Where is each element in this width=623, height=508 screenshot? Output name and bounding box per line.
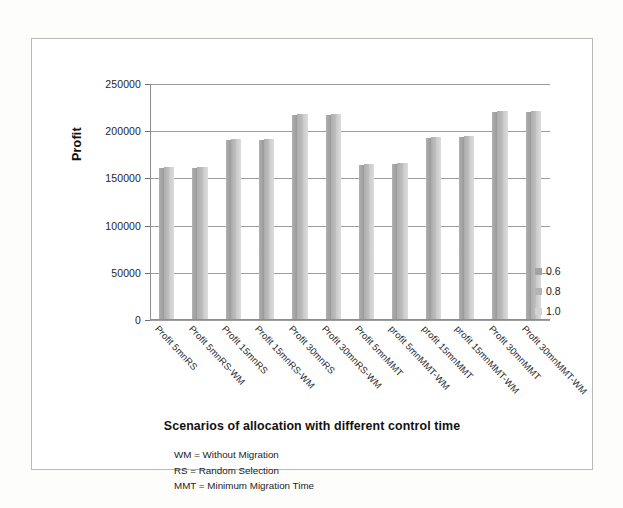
bar[interactable] bbox=[503, 111, 508, 320]
legend-label: 1.0 bbox=[546, 305, 561, 317]
x-axis-tick-label: Profit 30mnMMT-WM bbox=[520, 323, 590, 397]
legend-item[interactable]: 1.0 bbox=[535, 301, 605, 321]
chart-page: Profit 250000200000150000100000500000 Pr… bbox=[0, 0, 623, 508]
legend-swatch-icon bbox=[535, 288, 542, 295]
bar-group[interactable] bbox=[326, 84, 342, 320]
y-axis-tick bbox=[145, 320, 150, 321]
abbreviation-notes: WM = Without MigrationRS = Random Select… bbox=[174, 447, 314, 494]
gridline bbox=[150, 320, 550, 321]
legend-swatch-icon bbox=[535, 268, 542, 275]
abbreviation-note: RS = Random Selection bbox=[174, 463, 314, 479]
bar-group[interactable] bbox=[292, 84, 308, 320]
chart-frame: Profit 250000200000150000100000500000 Pr… bbox=[31, 38, 593, 470]
bar[interactable] bbox=[203, 167, 208, 320]
legend-item[interactable]: 0.8 bbox=[535, 281, 605, 301]
bar[interactable] bbox=[369, 164, 374, 320]
y-axis-tick-label: 250000 bbox=[105, 78, 141, 90]
bar[interactable] bbox=[303, 114, 308, 320]
bar[interactable] bbox=[336, 114, 341, 320]
x-axis-tick-label: Profit 5mnRS-WM bbox=[187, 323, 248, 387]
x-axis-tick-label: Profit 15mnRS-WM bbox=[253, 323, 317, 391]
y-axis-tick-label: 50000 bbox=[111, 267, 141, 279]
bar-group[interactable] bbox=[492, 84, 508, 320]
x-axis-tick-labels: Profit 5mnRSProfit 5mnRS-WMProfit 15mnRS… bbox=[150, 323, 550, 418]
plot-area: 250000200000150000100000500000 bbox=[150, 84, 550, 320]
bar-group[interactable] bbox=[226, 84, 242, 320]
bars-layer bbox=[150, 84, 550, 320]
x-axis-tick-label: Profit 30mnRS-WM bbox=[320, 323, 384, 391]
bar[interactable] bbox=[269, 139, 274, 320]
abbreviation-note: WM = Without Migration bbox=[174, 447, 314, 463]
bar-group[interactable] bbox=[426, 84, 442, 320]
legend-label: 0.8 bbox=[546, 285, 561, 297]
bar-group[interactable] bbox=[192, 84, 208, 320]
bar-group[interactable] bbox=[159, 84, 175, 320]
y-axis-tick-label: 150000 bbox=[105, 172, 141, 184]
bar-group[interactable] bbox=[392, 84, 408, 320]
bar[interactable] bbox=[469, 136, 474, 320]
legend-label: 0.6 bbox=[546, 265, 561, 277]
y-axis-tick-label: 0 bbox=[135, 314, 141, 326]
x-axis-tick-label: profit 5mnMMT-WM bbox=[387, 323, 452, 392]
bar[interactable] bbox=[436, 137, 441, 320]
bar[interactable] bbox=[169, 167, 174, 320]
y-axis-title: Profit bbox=[70, 127, 84, 161]
abbreviation-note: MMT = Minimum Migration Time bbox=[174, 478, 314, 494]
bar-group[interactable] bbox=[459, 84, 475, 320]
legend-swatch-icon bbox=[535, 308, 542, 315]
bar[interactable] bbox=[236, 139, 241, 320]
legend-item[interactable]: 0.6 bbox=[535, 261, 605, 281]
y-axis-tick-label: 200000 bbox=[105, 125, 141, 137]
bar-group[interactable] bbox=[259, 84, 275, 320]
bar[interactable] bbox=[403, 163, 408, 320]
y-axis-tick-label: 100000 bbox=[105, 220, 141, 232]
chart-legend: 0.60.81.0 bbox=[535, 261, 605, 321]
x-axis-tick-label: profit 15mnMMT-WM bbox=[453, 323, 522, 396]
x-axis-title: Scenarios of allocation with different c… bbox=[32, 419, 592, 433]
bar-group[interactable] bbox=[359, 84, 375, 320]
